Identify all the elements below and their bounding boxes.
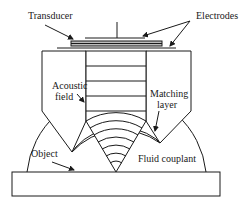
label-matching-1: Matching <box>150 88 188 99</box>
arrow-object <box>52 162 74 170</box>
label-electrodes: Electrodes <box>196 10 238 21</box>
label-matching-2: layer <box>157 99 178 110</box>
label-transducer: Transducer <box>28 10 73 21</box>
arrow-transducer <box>45 25 73 39</box>
acoustic-field-column <box>86 51 146 121</box>
label-acoustic-field-2: field <box>55 91 73 102</box>
arrow-electrode-top <box>143 21 190 36</box>
transducer-stack <box>57 22 176 48</box>
focusing-cone <box>86 113 146 172</box>
ultrasonic-transducer-diagram: Transducer Electrodes Acoustic field Mat… <box>0 0 248 207</box>
label-object: Object <box>31 148 58 159</box>
arrow-electrode-bottom <box>170 21 190 46</box>
label-acoustic-field-1: Acoustic <box>52 80 88 91</box>
object-block <box>12 172 220 196</box>
label-fluid-couplant: Fluid couplant <box>138 153 196 164</box>
